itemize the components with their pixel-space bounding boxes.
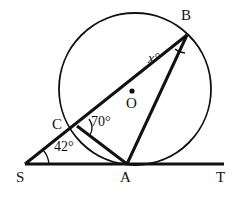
centre-dot: [129, 88, 134, 93]
secant-sb: [25, 35, 187, 164]
angle-label-b: x°: [148, 52, 160, 66]
point-label-t: T: [216, 170, 225, 185]
geometry-figure: S A T B C O 42° 70° x°: [0, 0, 245, 202]
angle-arc-s: [43, 150, 49, 164]
angle-label-c: 70°: [91, 115, 111, 129]
point-label-a: A: [120, 170, 131, 185]
point-label-o: O: [126, 96, 137, 111]
point-label-c: C: [52, 117, 62, 132]
point-label-s: S: [16, 170, 24, 185]
angle-label-s: 42°: [54, 140, 74, 154]
point-label-b: B: [181, 8, 191, 23]
